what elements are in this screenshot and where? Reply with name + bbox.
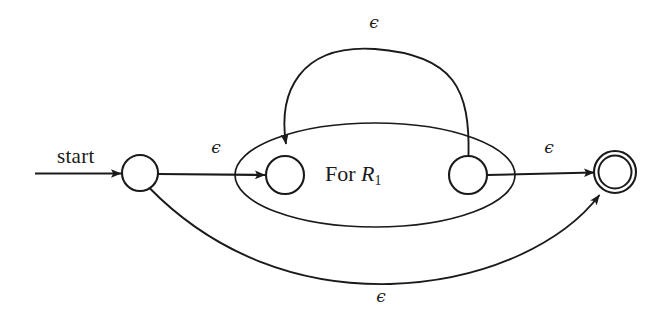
start-state: [122, 155, 158, 191]
start-label: start: [57, 146, 95, 167]
epsilon-label-bypass: ϵ: [371, 288, 391, 305]
epsilon-loop-back-edge: [284, 49, 468, 156]
epsilon-label-start-to-sub: ϵ: [206, 139, 226, 156]
final-accept-state: [594, 151, 636, 193]
nfa-diagram-figure: start ϵ ϵ ϵ ϵ For R1: [0, 0, 659, 324]
for-r1-label-subscript: 1: [375, 173, 382, 188]
epsilon-label-loop-back: ϵ: [364, 14, 384, 31]
for-r1-label: For R1: [325, 163, 382, 188]
epsilon-label-sub-to-accept: ϵ: [539, 139, 559, 156]
subautomaton-accept-state: [449, 156, 487, 194]
for-r1-label-text: For R: [325, 161, 375, 186]
subautomaton-start-state: [266, 156, 304, 194]
epsilon-start-to-sub-edge: [158, 174, 265, 175]
epsilon-sub-to-accept-edge: [487, 173, 594, 176]
epsilon-bypass-edge: [149, 188, 600, 285]
